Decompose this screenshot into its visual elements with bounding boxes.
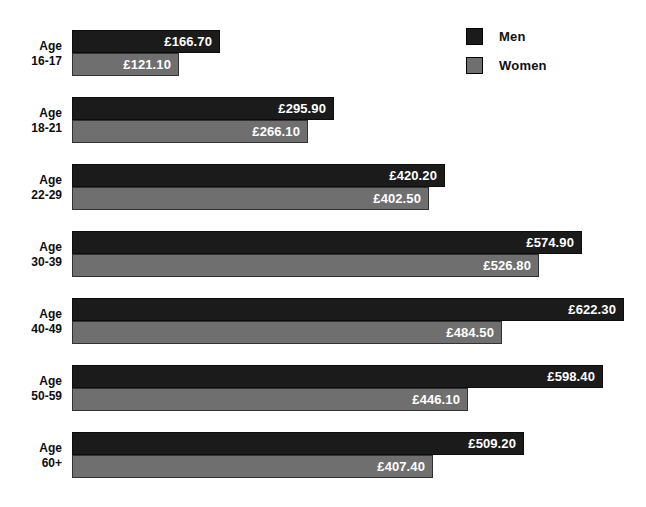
chart-row: Age60+£509.20£407.40	[0, 432, 646, 479]
bar-women: £407.40	[72, 455, 433, 478]
bar-men: £509.20	[72, 432, 524, 455]
bar-group: £295.90£266.10	[72, 97, 334, 143]
bar-men: £420.20	[72, 164, 445, 187]
bar-men: £295.90	[72, 97, 334, 120]
bar-women: £402.50	[72, 187, 429, 210]
bar-value-label: £509.20	[468, 436, 523, 451]
row-label-age-18-21: Age18-21	[0, 97, 62, 144]
bar-value-label: £622.30	[568, 302, 623, 317]
chart-rows: Age16-17£166.70£121.10Age18-21£295.90£26…	[0, 0, 646, 507]
bar-value-label: £266.10	[252, 124, 307, 139]
bar-value-label: £166.70	[164, 34, 219, 49]
row-label-line: 60+	[42, 456, 62, 470]
bar-group: £166.70£121.10	[72, 30, 220, 76]
bar-group: £622.30£484.50	[72, 298, 624, 344]
row-label-line: Age	[39, 106, 62, 120]
grouped-bar-chart: Men Women Age16-17£166.70£121.10Age18-21…	[0, 0, 646, 507]
row-label-age-16-17: Age16-17	[0, 30, 62, 77]
row-label-age-22-29: Age22-29	[0, 164, 62, 211]
row-label-age-50-59: Age50-59	[0, 365, 62, 412]
bar-women: £526.80	[72, 254, 539, 277]
bar-value-label: £446.10	[412, 392, 467, 407]
row-label-line: 50-59	[31, 389, 62, 403]
bar-group: £574.90£526.80	[72, 231, 582, 277]
row-label-age-40-49: Age40-49	[0, 298, 62, 345]
bar-women: £446.10	[72, 388, 468, 411]
bar-men: £622.30	[72, 298, 624, 321]
bar-men: £166.70	[72, 30, 220, 53]
row-label-line: Age	[39, 441, 62, 455]
bar-value-label: £420.20	[389, 168, 444, 183]
bar-men: £598.40	[72, 365, 603, 388]
row-label-line: Age	[39, 39, 62, 53]
chart-row: Age40-49£622.30£484.50	[0, 298, 646, 345]
bar-group: £420.20£402.50	[72, 164, 445, 210]
row-label-line: 30-39	[31, 255, 62, 269]
bar-group: £509.20£407.40	[72, 432, 524, 478]
row-label-age-30-39: Age30-39	[0, 231, 62, 278]
bar-value-label: £407.40	[377, 459, 432, 474]
bar-value-label: £598.40	[547, 369, 602, 384]
chart-row: Age16-17£166.70£121.10	[0, 30, 646, 77]
row-label-line: Age	[39, 374, 62, 388]
bar-women: £484.50	[72, 321, 502, 344]
row-label-line: 22-29	[31, 188, 62, 202]
bar-value-label: £526.80	[483, 258, 538, 273]
row-label-line: Age	[39, 307, 62, 321]
row-label-age-60: Age60+	[0, 432, 62, 479]
chart-row: Age22-29£420.20£402.50	[0, 164, 646, 211]
row-label-line: Age	[39, 240, 62, 254]
row-label-line: 40-49	[31, 322, 62, 336]
chart-row: Age50-59£598.40£446.10	[0, 365, 646, 412]
bar-value-label: £402.50	[373, 191, 428, 206]
bar-men: £574.90	[72, 231, 582, 254]
bar-value-label: £574.90	[526, 235, 581, 250]
bar-value-label: £484.50	[446, 325, 501, 340]
row-label-line: Age	[39, 173, 62, 187]
bar-group: £598.40£446.10	[72, 365, 603, 411]
chart-row: Age30-39£574.90£526.80	[0, 231, 646, 278]
bar-women: £121.10	[72, 53, 179, 76]
bar-value-label: £121.10	[123, 57, 178, 72]
bar-women: £266.10	[72, 120, 308, 143]
row-label-line: 18-21	[31, 121, 62, 135]
chart-row: Age18-21£295.90£266.10	[0, 97, 646, 144]
bar-value-label: £295.90	[278, 101, 333, 116]
row-label-line: 16-17	[31, 54, 62, 68]
